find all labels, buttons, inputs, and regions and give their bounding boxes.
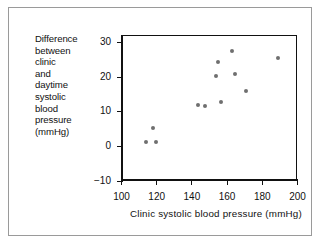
y-tick-label: −10 [94, 175, 111, 186]
x-tick-label: 160 [219, 191, 236, 202]
plot-border-right [296, 35, 297, 181]
y-axis-line [121, 35, 123, 182]
data-point [196, 103, 200, 107]
data-point [276, 56, 280, 60]
data-point [244, 89, 248, 93]
y-axis-label: Difference between clinic and daytime sy… [35, 33, 99, 137]
x-axis-line [121, 179, 298, 181]
y-axis-label-line: blood [35, 103, 99, 115]
plot-border-top [121, 35, 297, 36]
y-tick: 10 [117, 111, 121, 112]
y-axis-label-line: (mmHg) [35, 126, 99, 138]
x-tick-label: 120 [148, 191, 165, 202]
data-point [154, 140, 158, 144]
y-axis-label-line: daytime [35, 79, 99, 91]
x-tick-label: 100 [113, 191, 130, 202]
y-tick-label: 20 [100, 71, 111, 82]
x-tick: 140 [191, 181, 192, 185]
x-tick: 160 [227, 181, 228, 185]
x-tick: 200 [297, 181, 298, 185]
x-tick-label: 140 [184, 191, 201, 202]
figure-border: Difference between clinic and daytime sy… [8, 7, 312, 236]
y-tick-label: 10 [100, 105, 111, 116]
data-point [214, 74, 218, 78]
y-tick: 30 [117, 42, 121, 43]
plot-area: −100102030 100120140160180200 [121, 35, 297, 181]
figure-scatter-plot: Difference between clinic and daytime sy… [0, 0, 321, 245]
data-point [144, 140, 148, 144]
y-axis-label-line: and [35, 68, 99, 80]
y-axis-label-line: clinic [35, 56, 99, 68]
y-axis-label-line: Difference [35, 33, 99, 45]
y-tick-label: 0 [105, 140, 111, 151]
data-point [203, 104, 207, 108]
y-tick-label: 30 [100, 36, 111, 47]
y-axis-label-line: between [35, 45, 99, 57]
data-point [216, 60, 220, 64]
data-point [151, 126, 155, 130]
x-tick: 180 [262, 181, 263, 185]
x-axis-label: Clinic systolic blood pressure (mmHg) [121, 208, 311, 219]
data-point [230, 49, 234, 53]
x-tick: 120 [156, 181, 157, 185]
x-tick-label: 200 [289, 191, 306, 202]
y-tick: 0 [117, 146, 121, 147]
y-axis-label-line: systolic [35, 91, 99, 103]
x-tick: 100 [121, 181, 122, 185]
data-point [233, 72, 237, 76]
y-axis-label-line: pressure [35, 114, 99, 126]
x-tick-label: 180 [254, 191, 271, 202]
data-point [219, 100, 223, 104]
y-tick: 20 [117, 77, 121, 78]
